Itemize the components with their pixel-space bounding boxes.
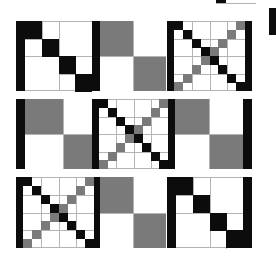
diagonal-cell-black <box>32 186 41 195</box>
diagonal-cell-black <box>134 134 143 143</box>
antidiagonal-cell-grey <box>41 221 50 230</box>
grid-line <box>209 99 210 169</box>
checker-block-grey <box>133 56 166 91</box>
antidiagonal-cell-grey <box>85 177 94 186</box>
diagonal-cell-black <box>218 65 227 74</box>
diagonal-cell-black <box>76 230 85 239</box>
diagonal-cell-black <box>227 74 236 83</box>
left-bracket-bar <box>16 177 23 248</box>
checker-block-grey <box>175 99 209 134</box>
diagonal-cell-black <box>67 221 76 230</box>
diagonal-cell-black <box>201 47 210 56</box>
antidiagonal-cell-grey <box>108 152 117 161</box>
antidiagonal-cell-grey <box>116 143 125 152</box>
grid-line <box>133 21 134 91</box>
bracket-corner <box>226 230 243 248</box>
checker-block-grey <box>209 134 243 169</box>
diagonal-cell-black <box>41 195 50 204</box>
cropped-fragment-black-top <box>216 0 226 3</box>
diagonal-block-black <box>59 56 76 74</box>
antidiagonal-cell-grey <box>134 125 143 134</box>
grid-line <box>174 90 245 91</box>
antidiagonal-cell-grey <box>151 108 160 117</box>
diagonal-cell-black <box>183 30 192 39</box>
grid-line <box>133 177 134 248</box>
antidiagonal-cell-grey <box>76 186 85 195</box>
checker-block-white <box>133 177 166 213</box>
diagonal-cell-black <box>236 82 245 91</box>
diagonal-cell-black <box>174 21 183 30</box>
bracket-corner <box>176 177 193 195</box>
antidiagonal-cell-grey <box>201 56 210 65</box>
left-bracket-bar <box>167 177 176 248</box>
antidiagonal-cell-grey <box>99 160 108 169</box>
checker-block-white <box>175 134 209 169</box>
antidiagonal-cell-grey <box>23 239 32 248</box>
antidiagonal-cell-grey <box>218 39 227 48</box>
left-bracket-bar <box>16 99 25 169</box>
grid-line <box>23 247 94 248</box>
checker-block-grey <box>133 213 166 248</box>
left-bracket-bar <box>92 99 99 169</box>
antidiagonal-cell-grey <box>59 204 68 213</box>
antidiagonal-cell-grey <box>32 230 41 239</box>
grid-line <box>63 99 64 169</box>
antidiagonal-cell-grey <box>174 82 183 91</box>
left-bracket-bar <box>16 21 25 91</box>
antidiagonal-cell-grey <box>227 30 236 39</box>
antidiagonal-cell-grey <box>192 65 201 74</box>
diagonal-block-black <box>42 39 59 57</box>
checker-block-white <box>209 99 243 134</box>
diagonal-block-black <box>210 213 227 231</box>
right-bracket-bar <box>245 21 252 91</box>
diagonal-cell-black <box>85 239 94 248</box>
antidiagonal-cell-grey <box>159 99 168 108</box>
antidiagonal-cell-grey <box>236 21 245 30</box>
antidiagonal-cell-grey <box>210 47 219 56</box>
right-bracket-bar <box>168 99 175 169</box>
bracket-corner <box>25 21 42 39</box>
antidiagonal-cell-grey <box>125 134 134 143</box>
checker-block-white <box>133 21 166 56</box>
antidiagonal-cell-grey <box>67 195 76 204</box>
grid-line <box>99 168 168 169</box>
diagonal-cell-black <box>125 125 134 134</box>
antidiagonal-cell-grey <box>50 213 59 222</box>
checker-block-grey <box>100 21 133 56</box>
checker-block-grey <box>100 177 133 213</box>
diagonal-block-black <box>193 195 210 213</box>
diagonal-cell-black <box>116 117 125 126</box>
diagonal-cell-black <box>192 39 201 48</box>
cropped-fragment-right-bar <box>269 8 276 35</box>
checker-block-white <box>25 134 63 169</box>
diagonal-cell-black <box>50 204 59 213</box>
diagonal-cell-black <box>99 99 108 108</box>
diagonal-cell-black <box>142 143 151 152</box>
antidiagonal-cell-grey <box>183 74 192 83</box>
checker-block-grey <box>25 99 63 134</box>
left-bracket-bar <box>167 21 174 91</box>
grid-line <box>174 21 245 22</box>
diagonal-cell-black <box>210 56 219 65</box>
diagonal-cell-black <box>108 108 117 117</box>
right-bracket-bar <box>243 177 252 248</box>
right-bracket-bar <box>243 99 252 169</box>
diagonal-cell-black <box>159 160 168 169</box>
bracket-corner <box>75 74 92 92</box>
checker-block-white <box>100 56 133 91</box>
grid-line <box>23 177 94 178</box>
checker-block-white <box>100 213 133 248</box>
diagonal-cell-black <box>23 177 32 186</box>
grid-line <box>99 99 168 100</box>
antidiagonal-cell-grey <box>142 117 151 126</box>
